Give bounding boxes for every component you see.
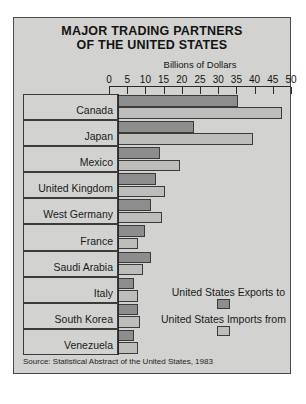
x-tick-label-25: 25 (194, 74, 205, 85)
category-label: Saudi Arabia (53, 261, 113, 273)
x-tick-10 (145, 87, 146, 94)
category-label-box: Japan (23, 120, 118, 146)
category-label: Japan (84, 130, 113, 142)
x-tick-20 (182, 87, 183, 94)
x-tick-label-5: 5 (124, 74, 130, 85)
x-tick-label-20: 20 (176, 74, 187, 85)
bar-imports (118, 238, 138, 250)
x-axis-ticks (109, 87, 304, 94)
zero-baseline (118, 94, 119, 355)
bar-group (118, 94, 284, 120)
category-label: Italy (94, 287, 113, 299)
source-note: Source: Statistical Abstract of the Unit… (23, 357, 213, 366)
bar-exports (118, 225, 145, 237)
chart-row: Mexico (23, 146, 284, 172)
category-label: Mexico (80, 156, 113, 168)
legend-item: United States Imports from (161, 313, 285, 336)
x-tick-label-50: 50 (285, 74, 296, 85)
category-label-box: Saudi Arabia (23, 251, 118, 277)
bar-imports (118, 186, 165, 198)
x-tick-50 (291, 87, 292, 94)
category-label-box: United Kingdom (23, 172, 118, 198)
category-label: South Korea (55, 313, 113, 325)
bar-exports (118, 121, 194, 133)
category-label: France (80, 235, 113, 247)
x-tick-0 (109, 87, 110, 94)
x-tick-label-15: 15 (158, 74, 169, 85)
x-tick-label-0: 0 (106, 74, 112, 85)
chart-legend: United States Exports toUnited States Im… (161, 286, 285, 340)
x-tick-label-10: 10 (140, 74, 151, 85)
bar-imports (118, 316, 140, 328)
chart-title-line-2: OF THE UNITED STATES (14, 38, 290, 52)
chart-row: Saudi Arabia (23, 251, 284, 277)
category-label: Canada (76, 104, 113, 116)
chart-title: MAJOR TRADING PARTNERS OF THE UNITED STA… (14, 24, 290, 52)
bar-imports (118, 160, 180, 172)
bar-exports (118, 304, 138, 316)
x-axis-ticklabels: 05101520253035404550 (109, 74, 304, 86)
bar-imports (118, 107, 282, 119)
bar-exports (118, 330, 134, 342)
legend-swatch-exports (217, 299, 230, 309)
category-label-box: France (23, 224, 118, 250)
category-label: West Germany (43, 208, 113, 220)
legend-swatch-imports (217, 326, 230, 336)
category-label: United Kingdom (38, 182, 113, 194)
bar-exports (118, 278, 134, 290)
bar-group (118, 172, 284, 198)
chart-figure: MAJOR TRADING PARTNERS OF THE UNITED STA… (13, 17, 291, 374)
bar-exports (118, 173, 156, 185)
chart-row: Japan (23, 120, 284, 146)
bar-imports (118, 342, 138, 354)
legend-item: United States Exports to (161, 286, 285, 309)
x-tick-40 (255, 87, 256, 94)
chart-row: France (23, 224, 284, 250)
category-label-box: West Germany (23, 198, 118, 224)
bar-exports (118, 252, 151, 264)
x-tick-30 (218, 87, 219, 94)
category-label-box: Mexico (23, 146, 118, 172)
bar-exports (118, 95, 238, 107)
bar-group (118, 251, 284, 277)
category-label-box: South Korea (23, 303, 118, 329)
bar-imports (118, 212, 162, 224)
bar-imports (118, 290, 138, 302)
bar-exports (118, 199, 151, 211)
legend-label: United States Exports to (161, 286, 285, 298)
x-tick-5 (127, 87, 128, 94)
chart-title-line-1: MAJOR TRADING PARTNERS (61, 24, 242, 38)
chart-row: West Germany (23, 198, 284, 224)
bar-group (118, 198, 284, 224)
bar-group (118, 224, 284, 250)
x-tick-label-35: 35 (231, 74, 242, 85)
bar-imports (118, 133, 253, 145)
bar-group (118, 146, 284, 172)
category-label: Venezuela (64, 339, 113, 351)
x-tick-label-30: 30 (213, 74, 224, 85)
x-tick-label-45: 45 (267, 74, 278, 85)
x-tick-label-40: 40 (249, 74, 260, 85)
legend-label: United States Imports from (161, 313, 285, 325)
x-tick-35 (236, 87, 237, 94)
x-axis-label: Billions of Dollars (109, 59, 291, 70)
bar-group (118, 120, 284, 146)
x-tick-15 (164, 87, 165, 94)
category-label-box: Venezuela (23, 329, 118, 355)
chart-row: United Kingdom (23, 172, 284, 198)
x-tick-25 (200, 87, 201, 94)
bar-imports (118, 264, 143, 276)
category-label-box: Italy (23, 277, 118, 303)
category-label-box: Canada (23, 94, 118, 120)
chart-row: Canada (23, 94, 284, 120)
bar-exports (118, 147, 160, 159)
x-tick-45 (273, 87, 274, 94)
